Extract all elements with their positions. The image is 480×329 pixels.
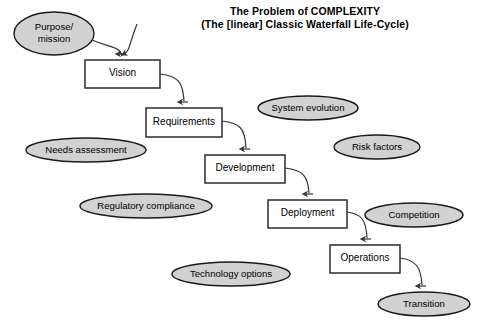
node-transition[interactable] <box>378 292 470 316</box>
node-regulatory-compliance[interactable] <box>80 194 212 218</box>
connector-purpose-to-vision <box>124 24 137 54</box>
node-technology-options[interactable] <box>172 262 290 286</box>
node-risk-factors[interactable] <box>334 135 420 159</box>
node-needs-assessment[interactable] <box>26 138 146 162</box>
connector-deployment-to-operations <box>347 212 367 238</box>
connector-requirements-to-development <box>222 121 246 148</box>
connector-operations-to-transition <box>400 258 422 285</box>
connector-purpose-to-vision-line <box>92 40 122 56</box>
node-system-evolution[interactable] <box>258 96 358 120</box>
node-deployment[interactable] <box>268 200 347 228</box>
node-vision[interactable] <box>85 60 160 88</box>
connector-vision-to-requirements <box>160 74 184 101</box>
node-development[interactable] <box>205 155 285 183</box>
node-operations[interactable] <box>330 245 400 273</box>
connector-development-to-deployment <box>285 168 309 193</box>
node-requirements[interactable] <box>146 108 222 137</box>
title-line-1: The Problem of COMPLEXITY <box>180 5 430 18</box>
node-competition[interactable] <box>365 203 463 227</box>
diagram-canvas: The Problem of COMPLEXITY (The [linear] … <box>0 0 480 329</box>
node-purpose-mission[interactable] <box>14 12 94 55</box>
title-line-2: (The [linear] Classic Waterfall Life-Cyc… <box>180 18 430 31</box>
diagram-svg <box>0 0 480 329</box>
diagram-title: The Problem of COMPLEXITY (The [linear] … <box>180 5 430 31</box>
